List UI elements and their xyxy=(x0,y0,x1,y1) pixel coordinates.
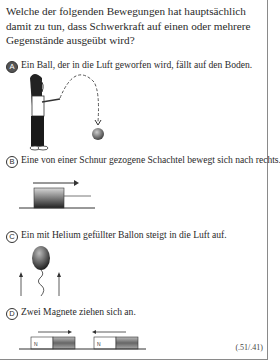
girl-throwing-ball-figure xyxy=(20,72,130,152)
question-text: Welche der folgenden Bewegungen hat haup… xyxy=(6,4,261,48)
magnets-attracting-figure: N N xyxy=(16,325,151,355)
option-c[interactable]: CEin mit Helium gefüllter Ballon steigt … xyxy=(6,229,227,243)
option-b[interactable]: BEine von einer Schnur gezogene Schachte… xyxy=(6,154,280,168)
balloon-rising-figure xyxy=(14,244,74,300)
option-d-text: Zwei Magnete ziehen sich an. xyxy=(21,306,136,317)
option-a-text: Ein Ball, der in die Luft geworfen wird,… xyxy=(21,59,252,70)
option-d[interactable]: DZwei Magnete ziehen sich an. xyxy=(6,306,136,320)
magnet-n-label-left: N xyxy=(34,341,38,347)
magnet-n-label-right: N xyxy=(97,341,101,347)
option-c-text: Ein mit Helium gefüllter Ballon steigt i… xyxy=(21,229,227,240)
difficulty-code: (.51/.41) xyxy=(235,343,263,352)
option-b-marker[interactable]: B xyxy=(6,156,18,168)
option-c-marker[interactable]: C xyxy=(6,231,18,243)
option-a-marker[interactable]: A xyxy=(6,61,18,73)
option-a[interactable]: AEin Ball, der in die Luft geworfen wird… xyxy=(6,59,252,73)
option-b-text: Eine von einer Schnur gezogene Schachtel… xyxy=(21,154,280,165)
option-d-marker[interactable]: D xyxy=(6,308,18,320)
box-pulled-right-figure xyxy=(15,176,105,221)
